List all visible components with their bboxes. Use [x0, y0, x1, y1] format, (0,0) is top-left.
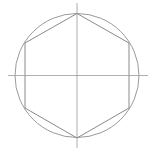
hexagon-circle-diagram: [0, 0, 154, 158]
